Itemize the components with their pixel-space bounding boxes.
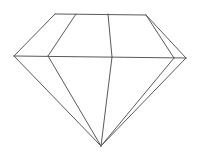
edge-girdle-inner-left-to-culet [48, 56, 101, 146]
diamond-drawing [0, 0, 197, 157]
edge-girdle-right-to-culet [101, 58, 186, 146]
edge-table-inner-left-to-girdle-inner-left [48, 14, 76, 56]
edge-girdle-left-to-culet [14, 56, 101, 146]
edge-girdle-inner-right-to-culet [101, 58, 174, 146]
edge-table-right-to-girdle-right [146, 15, 186, 58]
edge-girdle-mid-to-culet [101, 57, 112, 146]
edge-table-mid-to-girdle-mid [108, 14, 112, 57]
edge-girdle-left-to-girdle-right [14, 56, 186, 58]
edge-table-left-to-girdle-left [14, 14, 55, 56]
diamond-edges [14, 14, 186, 146]
edge-table-left-to-table-right [55, 14, 146, 15]
edge-table-right-to-girdle-inner-right [146, 15, 174, 58]
